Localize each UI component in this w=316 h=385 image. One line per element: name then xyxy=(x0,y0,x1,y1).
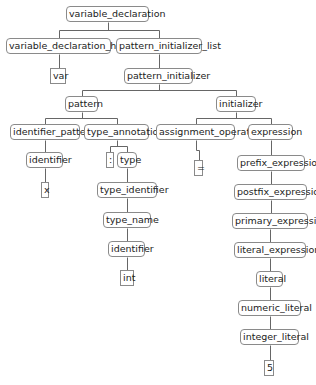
nonterminal-node: pattern_initializer xyxy=(124,68,193,84)
terminal-token-node: 5 xyxy=(264,360,274,376)
nonterminal-node: postfix_expression xyxy=(234,184,307,200)
nonterminal-node: initializer xyxy=(216,96,256,112)
nonterminal-node: primary_expression xyxy=(232,213,308,229)
nonterminal-node: variable_declaration xyxy=(66,6,149,22)
nonterminal-node: assignment_operator xyxy=(156,124,235,140)
nonterminal-node: literal_expression xyxy=(234,242,306,258)
nonterminal-node: identifier xyxy=(26,152,63,168)
nonterminal-node: prefix_expression xyxy=(237,155,305,171)
nonterminal-node: pattern xyxy=(65,96,98,112)
nonterminal-node: pattern_initializer_list xyxy=(116,38,202,54)
terminal-token-node: x xyxy=(41,182,49,198)
nonterminal-node: identifier xyxy=(108,241,145,257)
nonterminal-node: identifier_pattern xyxy=(10,124,80,140)
terminal-token-node: int xyxy=(120,270,134,286)
terminal-token-node: = xyxy=(194,160,203,176)
nonterminal-node: variable_declaration_head xyxy=(6,38,111,54)
nonterminal-node: type_name xyxy=(103,212,151,228)
terminal-token-node: : xyxy=(106,152,114,168)
nonterminal-node: integer_literal xyxy=(240,329,299,345)
nonterminal-node: type xyxy=(117,152,137,168)
nonterminal-node: literal xyxy=(256,271,283,287)
terminal-token-node: var xyxy=(50,68,66,84)
nonterminal-node: type_annotation xyxy=(84,124,149,140)
parse-tree: variable_declarationvariable_declaration… xyxy=(0,0,316,385)
nonterminal-node: numeric_literal xyxy=(238,300,301,316)
nonterminal-node: type_identifier xyxy=(97,182,157,198)
nonterminal-node: expression xyxy=(248,124,293,140)
